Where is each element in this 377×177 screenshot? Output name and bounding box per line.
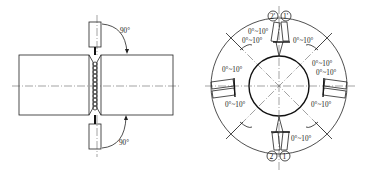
arrow-icon [125, 49, 129, 54]
bottom-torch [89, 115, 101, 157]
angle-label: 0°~10° [293, 37, 314, 45]
top-torches [271, 22, 290, 56]
angle-label: 0°~10° [242, 37, 263, 45]
left-torch [211, 78, 235, 98]
arrow-icon [124, 115, 128, 120]
angle-label: 0°~10° [312, 60, 333, 68]
svg-text:1': 1' [283, 12, 289, 21]
bottom-torches [271, 117, 290, 150]
bottom-angle-label: 90° [119, 139, 129, 147]
angle-label: 0°~10° [311, 101, 332, 109]
angle-label: 0°~10° [291, 135, 312, 143]
svg-text:2: 2 [270, 152, 274, 161]
right-torch [323, 78, 347, 98]
angle-label: 0°~10° [222, 66, 243, 74]
angle-label: 0°~10° [248, 28, 269, 36]
top-torch [89, 15, 101, 55]
pipe-butt-weld-figure: 90° 90° [12, 15, 180, 157]
welding-diagram: 90° 90° 2' 1' [0, 0, 377, 177]
circumferential-weld-figure: 2' 1' 2 1 0°~10° [205, 6, 355, 170]
svg-text:1: 1 [283, 152, 287, 161]
top-angle-label: 90° [120, 27, 130, 35]
svg-text:2': 2' [270, 12, 276, 21]
right-pipe [101, 55, 173, 115]
angle-label: 0°~10° [225, 101, 246, 109]
angle-label: 0°~10° [316, 69, 337, 77]
left-pipe [19, 55, 89, 115]
